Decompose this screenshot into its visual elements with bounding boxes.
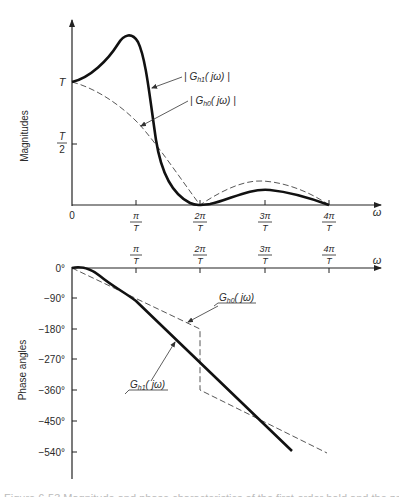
- ytick-half-T: T 2: [57, 131, 67, 155]
- svg-text:T: T: [262, 256, 269, 266]
- svg-text:4π: 4π: [323, 244, 335, 254]
- svg-text:T: T: [326, 223, 333, 233]
- svg-text:T: T: [197, 223, 204, 233]
- svg-text:Gh1( jω): Gh1( jω): [130, 379, 165, 391]
- svg-text:3π: 3π: [259, 211, 271, 221]
- svg-text:T: T: [133, 256, 140, 266]
- svg-text:Gh0( jω): Gh0( jω): [219, 292, 254, 304]
- phase-plot: Phase angles 0° −90° −180° −270° −360° −…: [17, 244, 382, 479]
- omega-label-top: ω: [373, 206, 382, 218]
- svg-text:T: T: [133, 223, 140, 233]
- xtick-pi-over-T: π T: [130, 211, 142, 233]
- gh1-phase-annotation: Gh1( jω): [125, 342, 175, 394]
- magnitude-plot: Magnitudes T T 2 0 π T 2π T 3π T 4π T ω: [19, 20, 382, 233]
- ytick-0deg: 0°: [55, 263, 65, 274]
- svg-text:4π: 4π: [323, 211, 335, 221]
- ytick-neg90: −90°: [44, 293, 65, 304]
- svg-text:T: T: [326, 256, 333, 266]
- phase-axis-label: Phase angles: [17, 340, 28, 401]
- ytick-neg270: −270°: [38, 354, 65, 365]
- svg-text:T: T: [262, 223, 269, 233]
- xtick-0: 0: [69, 210, 75, 221]
- svg-text:2π: 2π: [193, 244, 206, 254]
- svg-text:2π: 2π: [193, 211, 206, 221]
- gh1-magnitude-curve: [72, 35, 329, 205]
- svg-text:T: T: [59, 131, 66, 142]
- svg-text:π: π: [133, 244, 140, 254]
- phase-xtick-4pi-over-T: 4π T: [322, 244, 336, 266]
- gh1-magnitude-leader: [152, 77, 182, 88]
- xtick-3pi-over-T: 3π T: [258, 211, 272, 233]
- gh1-phase-curve: [72, 267, 292, 451]
- bode-figure: Magnitudes T T 2 0 π T 2π T 3π T 4π T ω: [0, 0, 401, 497]
- xtick-4pi-over-T: 4π T: [322, 211, 336, 233]
- phase-xtick-pi-over-T: π T: [130, 244, 142, 266]
- figure-caption: Figure 6-53 Magnitude and phase characte…: [4, 488, 399, 497]
- svg-text:T: T: [197, 256, 204, 266]
- svg-text:π: π: [133, 211, 140, 221]
- ytick-neg540: −540°: [38, 447, 65, 458]
- phase-xtick-3pi-over-T: 3π T: [258, 244, 272, 266]
- gh1-magnitude-annotation: | Gh1( jω) |: [184, 71, 230, 83]
- gh0-phase-annotation: Gh0( jω): [188, 292, 256, 322]
- gh0-magnitude-leader: [141, 101, 188, 126]
- magnitude-axis-label: Magnitudes: [19, 110, 30, 162]
- ytick-neg180: −180°: [38, 324, 65, 335]
- ytick-neg450: −450°: [38, 416, 65, 427]
- omega-label-bottom: ω: [373, 254, 382, 266]
- phase-xtick-2pi-over-T: 2π T: [193, 244, 207, 266]
- ytick-T: T: [59, 76, 67, 88]
- xtick-2pi-over-T: 2π T: [193, 211, 207, 233]
- gh0-magnitude-annotation: | Gh0( jω) |: [190, 95, 236, 107]
- svg-text:2: 2: [59, 144, 65, 155]
- svg-text:3π: 3π: [259, 244, 271, 254]
- ytick-neg360: −360°: [38, 385, 65, 396]
